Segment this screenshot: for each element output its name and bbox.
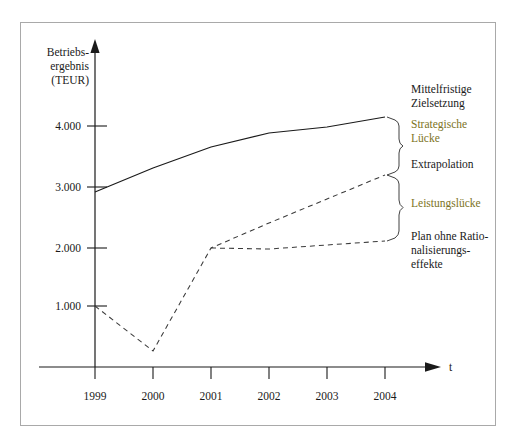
x-tick-group: 1999 2000 2001 2002 2003 2004 xyxy=(84,367,397,402)
brace-strategische-luecke xyxy=(387,117,403,175)
legend-label-line: effekte xyxy=(411,258,443,270)
legend-item-mittelfristige-zielsetzung: Mittelfristige Zielsetzung xyxy=(411,83,472,110)
y-tick-label: 3.000 xyxy=(55,181,81,193)
chart-figure: Betriebs- ergebnis (TEUR) t 1.000 2.000 … xyxy=(20,22,496,426)
x-tick-label: 2001 xyxy=(200,390,223,402)
y-axis-arrow-icon xyxy=(90,39,99,53)
x-tick-label: 2003 xyxy=(316,390,339,402)
x-axis-arrow-icon xyxy=(425,362,441,372)
brace-leistungsluecke xyxy=(387,175,403,241)
y-axis-label-line-2: ergebnis xyxy=(50,60,89,73)
series-plan-ohne-rationalisierungseffekte xyxy=(211,241,385,249)
y-axis xyxy=(90,39,99,367)
y-axis-label: Betriebs- ergebnis (TEUR) xyxy=(47,46,90,87)
legend-item-plan-ohne-rationalisierungseffekte: Plan ohne Ratio- nalisierungs- effekte xyxy=(411,230,488,270)
x-axis-symbol: t xyxy=(449,361,453,373)
chart-plot-area: Betriebs- ergebnis (TEUR) t 1.000 2.000 … xyxy=(21,23,495,425)
series-mittelfristige-zielsetzung xyxy=(95,117,385,192)
y-tick-label: 1.000 xyxy=(55,300,81,312)
legend-label-line: Zielsetzung xyxy=(411,97,465,110)
legend-item-strategische-luecke: Strategische Lücke xyxy=(411,118,467,144)
legend: Mittelfristige Zielsetzung Strategische … xyxy=(411,83,488,270)
legend-label-line: Plan ohne Ratio- xyxy=(411,230,488,242)
y-axis-label-line-3: (TEUR) xyxy=(51,74,89,87)
legend-label-line: Extrapolation xyxy=(411,158,474,171)
x-tick-label: 2002 xyxy=(258,390,281,402)
y-tick-label: 2.000 xyxy=(55,242,81,254)
x-tick-label: 2004 xyxy=(374,390,397,402)
series-extrapolation-path xyxy=(95,175,385,351)
legend-label-line: Strategische xyxy=(411,118,467,131)
legend-label-line: Mittelfristige xyxy=(411,83,472,96)
x-tick-label: 1999 xyxy=(84,390,107,402)
legend-item-extrapolation: Extrapolation xyxy=(411,158,474,171)
x-axis xyxy=(39,362,441,372)
legend-label-line: nalisierungs- xyxy=(411,244,471,257)
y-tick-group: 1.000 2.000 3.000 4.000 xyxy=(55,120,107,312)
legend-item-leistungsluecke: Leistungslücke xyxy=(411,197,481,210)
y-axis-label-line-1: Betriebs- xyxy=(47,46,89,58)
legend-label-line: Leistungslücke xyxy=(411,197,481,210)
x-tick-label: 2000 xyxy=(142,390,165,402)
legend-label-line: Lücke xyxy=(411,132,440,144)
y-tick-label: 4.000 xyxy=(55,120,81,132)
